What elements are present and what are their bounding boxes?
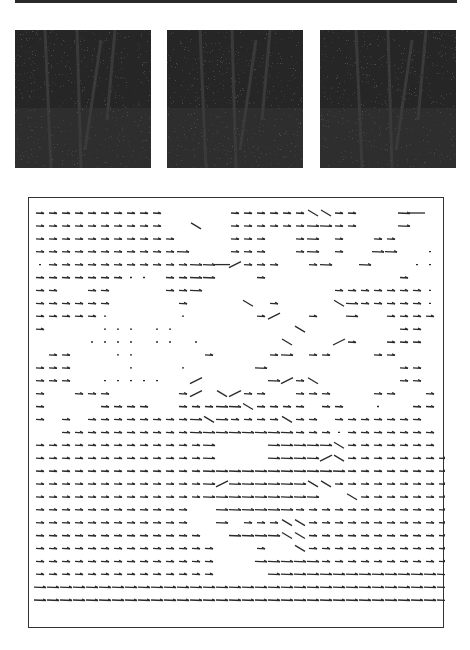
flow-vector: [321, 481, 331, 487]
flow-vector: [308, 481, 318, 487]
flow-vector: [229, 262, 241, 268]
flow-vector: [347, 494, 357, 500]
flow-vector: [439, 561, 445, 562]
flow-vector: [216, 481, 228, 487]
flow-vector: [308, 378, 318, 384]
flow-vector: [334, 300, 344, 306]
flow-vector: [321, 210, 331, 216]
flow-vector: [295, 533, 305, 539]
flow-vector: [439, 458, 445, 459]
flow-vector: [217, 391, 227, 397]
flow-vector: [243, 404, 253, 410]
flow-vector: [190, 391, 202, 397]
flow-vector: [320, 455, 332, 461]
flow-vector: [268, 313, 280, 319]
image-frame-1: [15, 30, 151, 168]
flow-vector: [282, 533, 292, 539]
flow-vector: [439, 471, 445, 472]
flow-vector: [295, 545, 305, 551]
image-frame-3: [320, 30, 456, 168]
flow-vector: [334, 455, 344, 461]
flow-vector: [439, 523, 445, 524]
flow-vector: [282, 339, 292, 345]
flow-vector: [282, 520, 292, 526]
flow-vector: [229, 391, 241, 397]
flow-vector: [437, 587, 445, 588]
top-rule: [15, 0, 457, 3]
flow-vector: [334, 442, 344, 448]
flow-vector: [308, 210, 318, 216]
image-frame-2: [167, 30, 303, 168]
flow-vector: [243, 300, 253, 306]
flow-vector: [439, 510, 445, 511]
flow-vector: [437, 574, 445, 575]
flow-vector: [295, 326, 305, 332]
flow-vector: [282, 416, 292, 422]
flow-vector: [439, 548, 445, 549]
flow-vector: [204, 416, 214, 422]
flow-vector: [439, 536, 445, 537]
flow-vector: [190, 378, 202, 384]
flow-vector: [439, 497, 445, 498]
flow-vector: [191, 223, 201, 229]
optical-flow-field: [28, 197, 444, 628]
flow-vectors: [29, 198, 445, 629]
flow-vector: [295, 520, 305, 526]
flow-vector: [333, 339, 345, 345]
flow-vector: [437, 600, 445, 601]
flow-vector: [281, 378, 293, 384]
flow-vector: [439, 484, 445, 485]
